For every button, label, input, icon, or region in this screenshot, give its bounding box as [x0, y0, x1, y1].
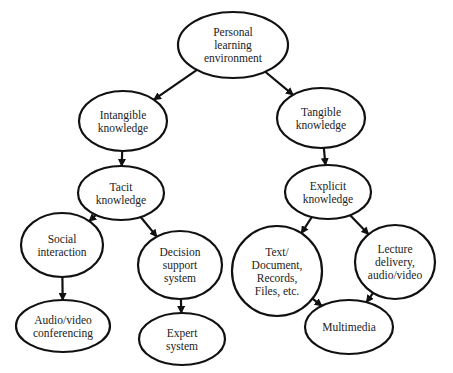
- node-label-line: Document,: [252, 259, 303, 272]
- node-tacit: Tacitknowledge: [78, 166, 164, 220]
- node-label-line: Personal: [213, 26, 253, 38]
- node-label-line: Expert: [167, 327, 198, 340]
- node-expert: Expertsystem: [139, 313, 225, 365]
- node-label-line: knowledge: [98, 122, 148, 135]
- node-lecture: Lecturedelivery,audio/video: [355, 225, 435, 299]
- node-tangible: Tangibleknowledge: [277, 88, 365, 148]
- node-multimedia: Multimedia: [305, 300, 393, 354]
- edge-lecture-to-multimedia: [367, 293, 374, 302]
- node-label-line: conferencing: [33, 327, 93, 340]
- node-label-line: Records,: [257, 272, 298, 285]
- diagram-canvas: PersonallearningenvironmentIntangiblekno…: [0, 0, 453, 373]
- node-label-line: Files, etc.: [255, 285, 300, 298]
- edge-tacit-to-social: [89, 215, 96, 221]
- node-label-line: knowledge: [296, 119, 346, 132]
- node-label-line: Decision: [160, 246, 201, 258]
- node-explicit: Explicitknowledge: [285, 165, 371, 219]
- node-label-line: Tacit: [110, 181, 134, 193]
- edge-explicit-to-text: [301, 217, 311, 233]
- node-label-line: interaction: [37, 246, 86, 258]
- edge-tacit-to-dss: [141, 217, 157, 237]
- node-label-line: system: [166, 340, 198, 353]
- node-text: Text/Document,Records,Files, etc.: [232, 226, 322, 316]
- node-label-line: Multimedia: [322, 321, 376, 333]
- node-intangible: Intangibleknowledge: [79, 91, 167, 151]
- knowledge-tree-diagram: PersonallearningenvironmentIntangiblekno…: [0, 0, 453, 373]
- node-label-line: Audio/video: [34, 314, 92, 326]
- node-avconf: Audio/videoconferencing: [16, 300, 110, 352]
- node-label-line: Lecture: [377, 243, 412, 255]
- node-label-line: Intangible: [100, 109, 147, 122]
- edge-ple-to-tangible: [265, 72, 293, 95]
- node-ple: Personallearningenvironment: [178, 12, 288, 78]
- node-label-line: Tangible: [301, 106, 341, 119]
- edge-ple-to-intangible: [154, 70, 197, 100]
- node-label-line: knowledge: [96, 194, 146, 207]
- node-label-line: Social: [48, 233, 77, 245]
- node-label-line: audio/video: [368, 269, 423, 281]
- edge-explicit-to-lecture: [350, 215, 368, 234]
- node-dss: Decisionsupportsystem: [138, 231, 222, 299]
- node-label-line: learning: [214, 39, 252, 52]
- node-label-line: Explicit: [310, 180, 347, 193]
- node-label-line: knowledge: [303, 193, 353, 206]
- edge-tangible-to-explicit: [324, 148, 326, 165]
- node-label-line: support: [163, 259, 198, 272]
- node-label-line: delivery,: [375, 256, 415, 269]
- node-label-line: environment: [204, 52, 263, 64]
- node-label-line: Text/: [265, 246, 289, 258]
- node-label-line: system: [164, 272, 196, 285]
- node-social: Socialinteraction: [21, 213, 103, 277]
- edge-text-to-multimedia: [313, 299, 322, 306]
